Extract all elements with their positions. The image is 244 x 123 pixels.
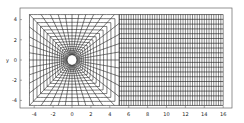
plot-frame	[20, 8, 232, 108]
y-tick-label: 4	[14, 16, 17, 22]
x-tick-label: 0	[70, 111, 73, 117]
y-axis-label: y	[6, 57, 9, 64]
x-tick-label: -2	[51, 111, 56, 117]
x-tick-label: -4	[32, 111, 37, 117]
mesh-plot: -4-20246810121416 420-2-4 y	[0, 0, 244, 123]
x-tick-label: 4	[108, 111, 111, 117]
x-tick-label: 6	[127, 111, 130, 117]
y-axis-ticks: 420-2-4	[12, 16, 22, 103]
x-tick-label: 12	[182, 111, 188, 117]
y-tick-label: -4	[12, 97, 17, 103]
y-tick-label: 0	[14, 57, 17, 63]
mesh-lines	[29, 15, 223, 106]
y-tick-label: 2	[14, 37, 17, 43]
x-tick-label: 14	[201, 111, 207, 117]
cylinder-hole	[68, 56, 77, 65]
x-tick-label: 2	[89, 111, 92, 117]
y-tick-label: -2	[12, 77, 17, 83]
x-tick-label: 8	[146, 111, 149, 117]
x-tick-label: 16	[220, 111, 226, 117]
x-tick-label: 10	[163, 111, 169, 117]
